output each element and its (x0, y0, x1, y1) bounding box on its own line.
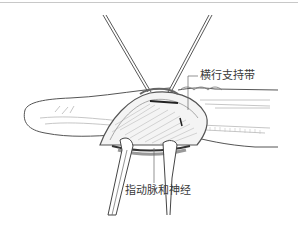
incision-field (100, 92, 207, 154)
retraction-suture-left (103, 15, 151, 92)
label-transverse-retinacular-ligament: 横行支持带 (200, 70, 255, 82)
retractor-right (163, 141, 177, 215)
label-digital-artery-and-nerve: 指动脉和神经 (125, 185, 191, 197)
surgical-illustration (0, 0, 300, 236)
